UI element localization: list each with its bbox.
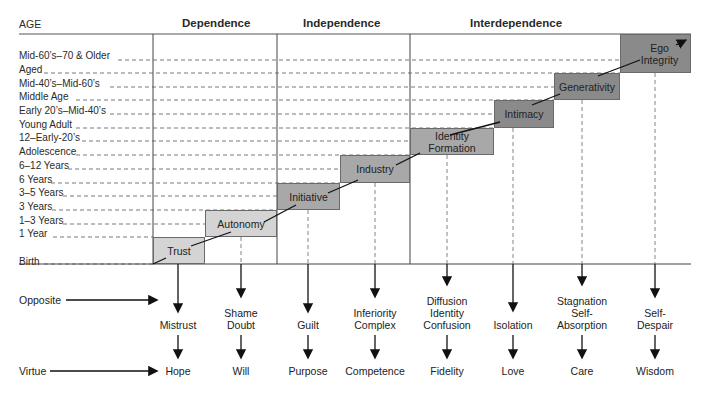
progression-arrows bbox=[0, 0, 705, 393]
virtue-label: Fidelity bbox=[430, 365, 463, 377]
opposite-label: Inferiority Complex bbox=[353, 307, 396, 331]
virtue-label: Hope bbox=[165, 365, 190, 377]
virtue-label: Competence bbox=[345, 365, 405, 377]
virtue-label: Care bbox=[571, 365, 594, 377]
virtue-label: Will bbox=[233, 365, 250, 377]
opposite-label: Mistrust bbox=[160, 319, 197, 331]
opposite-label: Guilt bbox=[297, 319, 319, 331]
row-label-virtue: Virtue bbox=[19, 365, 46, 377]
opposite-label: Self- Despair bbox=[637, 307, 673, 331]
opposite-label: Diffusion Identity Confusion bbox=[423, 295, 470, 331]
row-label-opposite: Opposite bbox=[19, 294, 61, 306]
opposite-label: Isolation bbox=[493, 319, 532, 331]
opposite-label: Shame Doubt bbox=[224, 307, 257, 331]
opposite-label: Stagnation Self- Absorption bbox=[557, 295, 607, 331]
virtue-label: Love bbox=[502, 365, 525, 377]
virtue-label: Wisdom bbox=[636, 365, 674, 377]
virtue-label: Purpose bbox=[288, 365, 327, 377]
